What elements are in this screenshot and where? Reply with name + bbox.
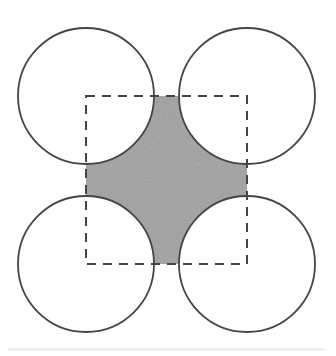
figure-page bbox=[0, 0, 336, 356]
circle-bottom-left bbox=[18, 196, 154, 332]
shade-grain-texture bbox=[0, 0, 336, 356]
scan-artifact-line bbox=[8, 348, 324, 351]
geometry-figure-canvas bbox=[0, 0, 336, 356]
